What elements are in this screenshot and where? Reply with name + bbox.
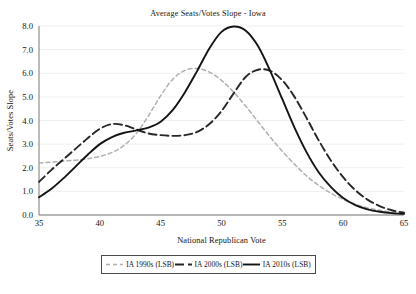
svg-text:2.0: 2.0 bbox=[22, 163, 33, 173]
svg-text:6.0: 6.0 bbox=[22, 68, 33, 78]
svg-text:4.0: 4.0 bbox=[22, 116, 33, 126]
legend-entry-1990s[interactable]: IA 1990s (LSB) bbox=[106, 260, 174, 269]
svg-text:8.0: 8.0 bbox=[22, 21, 33, 31]
x-axis-ticks: 35404550556065 bbox=[35, 218, 409, 228]
data-series-group bbox=[39, 26, 404, 213]
legend-label-2010s: IA 2010s (LSB) bbox=[263, 260, 311, 269]
svg-text:3.0: 3.0 bbox=[22, 139, 33, 149]
svg-text:7.0: 7.0 bbox=[22, 45, 33, 55]
legend-swatch-1990s-icon bbox=[106, 261, 123, 268]
svg-text:1.0: 1.0 bbox=[22, 186, 33, 196]
y-axis-ticks: 0.01.02.03.04.05.06.07.08.0 bbox=[22, 21, 33, 220]
svg-text:35: 35 bbox=[35, 218, 44, 228]
svg-text:0.0: 0.0 bbox=[22, 210, 33, 220]
svg-text:40: 40 bbox=[96, 218, 105, 228]
y-axis-title: Seats/Votes Slope bbox=[6, 90, 15, 152]
legend-entry-2010s[interactable]: IA 2010s (LSB) bbox=[243, 260, 311, 269]
legend-swatch-2010s-icon bbox=[243, 261, 260, 268]
svg-text:5.0: 5.0 bbox=[22, 92, 33, 102]
x-axis-title: National Republican Vote bbox=[177, 236, 266, 245]
svg-text:55: 55 bbox=[278, 218, 287, 228]
svg-text:50: 50 bbox=[217, 218, 226, 228]
chart-legend: IA 1990s (LSB) IA 2000s (LSB) IA 2010s (… bbox=[101, 255, 316, 274]
legend-entry-2000s[interactable]: IA 2000s (LSB) bbox=[175, 260, 243, 269]
bottom-caption bbox=[6, 286, 410, 294]
legend-swatch-2000s-icon bbox=[175, 261, 192, 268]
chart-plot-area: 35404550556065 0.01.02.03.04.05.06.07.08… bbox=[0, 0, 416, 294]
grid-lines bbox=[39, 26, 404, 215]
svg-text:65: 65 bbox=[400, 218, 409, 228]
svg-text:60: 60 bbox=[339, 218, 348, 228]
figure-container: Average Seats/Votes Slope - Iowa 3540455… bbox=[0, 0, 416, 294]
legend-label-1990s: IA 1990s (LSB) bbox=[126, 260, 174, 269]
series-line-2 bbox=[39, 26, 404, 213]
legend-label-2000s: IA 2000s (LSB) bbox=[195, 260, 243, 269]
svg-text:45: 45 bbox=[156, 218, 165, 228]
